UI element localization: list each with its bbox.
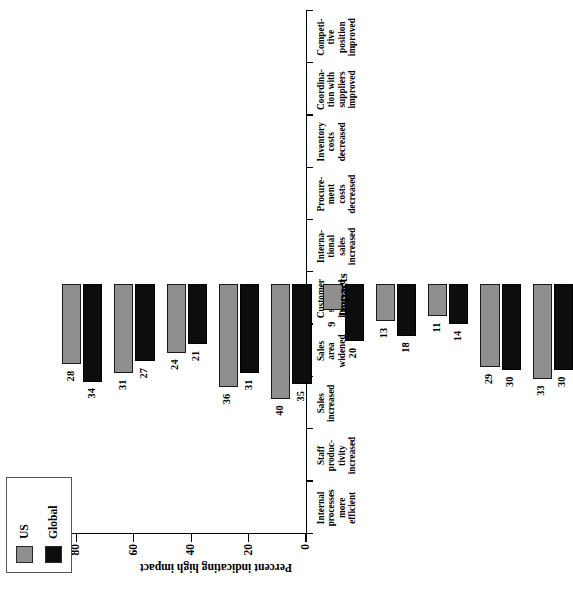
- bar-value-label: 13: [378, 328, 389, 339]
- chart-legend: US Global: [6, 477, 72, 573]
- category-label-line: Procure-: [316, 168, 326, 220]
- category-label-line: Coordina-: [316, 63, 326, 115]
- x-tick: [306, 428, 313, 429]
- bar-global: [449, 284, 468, 324]
- bar-global: [292, 284, 311, 384]
- bar-value-label: 27: [138, 368, 149, 379]
- bar-value-label: 40: [274, 405, 285, 416]
- category-label-line: Staff: [316, 429, 326, 481]
- bar-value-label: 28: [65, 371, 76, 382]
- bar-value-label: 30: [504, 377, 515, 388]
- legend-label-global: Global: [47, 505, 60, 539]
- bar-us: [376, 284, 395, 321]
- y-tick: [133, 534, 134, 542]
- bar-value-label: 33: [535, 385, 546, 396]
- bar-value-label: 30: [556, 377, 567, 388]
- bar-value-label: 21: [190, 351, 201, 362]
- bar-value-label: 35: [295, 391, 306, 402]
- category-label-line: Competi-: [316, 11, 326, 63]
- x-tick: [306, 533, 313, 534]
- bar-us: [219, 284, 238, 387]
- bar-global: [188, 284, 207, 344]
- x-tick: [306, 114, 313, 115]
- y-tick-label: 60: [127, 544, 139, 590]
- bar-us: [62, 284, 81, 364]
- bar-value-label: 11: [431, 323, 442, 333]
- y-tick-label: 0: [299, 544, 311, 590]
- bar-us: [480, 284, 499, 367]
- category-label-line: Interna-: [316, 220, 326, 272]
- bar-global: [502, 284, 521, 370]
- bar-us: [533, 284, 552, 379]
- legend-swatch-global: [45, 546, 62, 563]
- bar-us: [167, 284, 186, 353]
- x-tick: [306, 167, 313, 168]
- bar-value-label: 29: [483, 374, 494, 385]
- category-label-line: Inventory: [316, 116, 326, 168]
- x-tick: [306, 271, 313, 272]
- bar-global: [554, 284, 573, 370]
- category-label: Salesincreased: [316, 377, 337, 429]
- category-label-line: Sales: [316, 325, 326, 377]
- x-axis-line: [306, 11, 307, 534]
- legend-item-global: Global: [45, 505, 62, 563]
- y-tick: [191, 534, 192, 542]
- category-label-line: Sales: [316, 377, 326, 429]
- bar-us: [428, 284, 447, 316]
- bar-value-label: 36: [221, 394, 232, 405]
- x-axis-title: Impacts: [336, 0, 351, 590]
- bar-value-label: 14: [452, 331, 463, 342]
- y-tick: [248, 534, 249, 542]
- x-tick: [306, 10, 313, 11]
- x-tick: [306, 219, 313, 220]
- x-tick: [306, 62, 313, 63]
- bar-value-label: 34: [86, 388, 97, 399]
- x-tick: [306, 480, 313, 481]
- y-tick: [76, 534, 77, 542]
- legend-swatch-us: [16, 546, 33, 563]
- y-tick: [305, 534, 306, 542]
- y-axis-title: Percent indicating high impact: [140, 561, 292, 574]
- bar-global: [83, 284, 102, 382]
- legend-label-us: US: [18, 524, 31, 539]
- legend-item-us: US: [16, 524, 33, 563]
- bar-global: [135, 284, 154, 361]
- bar-value-label: 24: [169, 359, 180, 370]
- category-label-line: Internal: [316, 482, 326, 534]
- bar-value-label: 31: [243, 379, 254, 390]
- bar-value-label: 31: [117, 379, 128, 390]
- bar-global: [240, 284, 259, 373]
- bar-us: [271, 284, 290, 399]
- bar-us: [114, 284, 133, 373]
- bar-global: [397, 284, 416, 336]
- bar-value-label: 18: [400, 342, 411, 353]
